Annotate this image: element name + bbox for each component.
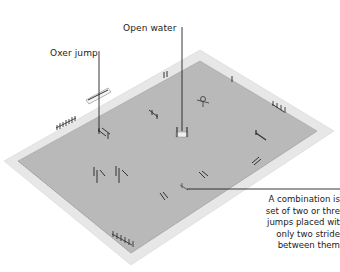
spectator-stand-icon <box>86 88 111 104</box>
open-water-label: Open water <box>123 23 177 33</box>
combination-text-line-2: set of two or thre <box>228 206 340 218</box>
oxer-jump-label: Oxer jump <box>50 48 98 58</box>
combination-text-line-3: jumps placed wit <box>228 217 340 229</box>
combination-description: A combination is set of two or thre jump… <box>228 194 340 252</box>
combination-text-line-4: only two stride <box>228 229 340 241</box>
combination-text-line-1: A combination is <box>228 194 340 206</box>
combination-text-line-5: between them <box>228 240 340 252</box>
